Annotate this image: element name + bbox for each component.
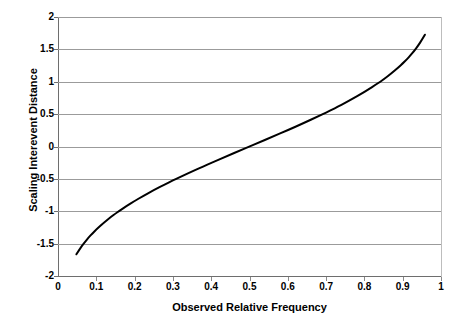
x-tick-mark: [364, 277, 365, 281]
x-axis-title: Observed Relative Frequency: [58, 301, 441, 313]
plot-right-border: [441, 17, 442, 277]
x-tick-label: 1: [426, 281, 455, 292]
x-tick-mark: [96, 277, 97, 281]
chart-figure: Scaling Interevent Distance 21.510.50-0.…: [0, 0, 455, 330]
y-tick-mark: [54, 276, 58, 277]
x-tick-mark: [135, 277, 136, 281]
y-tick-label: -0.5: [26, 173, 54, 184]
y-tick-label: -1.5: [26, 238, 54, 249]
y-tick-mark: [54, 82, 58, 83]
y-tick-mark: [54, 147, 58, 148]
y-tick-mark: [54, 211, 58, 212]
x-tick-mark: [403, 277, 404, 281]
y-tick-mark: [54, 17, 58, 18]
x-tick-mark: [211, 277, 212, 281]
plot-area: [58, 17, 441, 276]
x-tick-label: 0.2: [120, 281, 150, 292]
y-tick-label: 0.5: [26, 108, 54, 119]
y-tick-label: 1.5: [26, 43, 54, 54]
y-tick-label: 2: [26, 11, 54, 22]
curve-series: [58, 17, 441, 276]
x-tick-label: 0.8: [349, 281, 379, 292]
x-tick-label: 0.5: [235, 281, 265, 292]
y-tick-mark: [54, 244, 58, 245]
x-tick-mark: [173, 277, 174, 281]
x-tick-mark: [250, 277, 251, 281]
y-tick-label: 0: [26, 141, 54, 152]
x-tick-mark: [326, 277, 327, 281]
y-tick-mark: [54, 49, 58, 50]
y-tick-label: -2: [26, 270, 54, 281]
x-tick-label: 0.9: [388, 281, 418, 292]
curve-path: [76, 35, 425, 255]
x-tick-label: 0.6: [273, 281, 303, 292]
x-tick-mark: [288, 277, 289, 281]
y-tick-mark: [54, 179, 58, 180]
y-tick-label: 1: [26, 76, 54, 87]
x-tick-mark: [441, 277, 442, 281]
y-tick-mark: [54, 114, 58, 115]
x-tick-label: 0.1: [81, 281, 111, 292]
x-tick-label: 0.4: [196, 281, 226, 292]
x-tick-label: 0: [43, 281, 73, 292]
x-tick-label: 0.3: [158, 281, 188, 292]
x-tick-label: 0.7: [311, 281, 341, 292]
y-tick-label: -1: [26, 205, 54, 216]
